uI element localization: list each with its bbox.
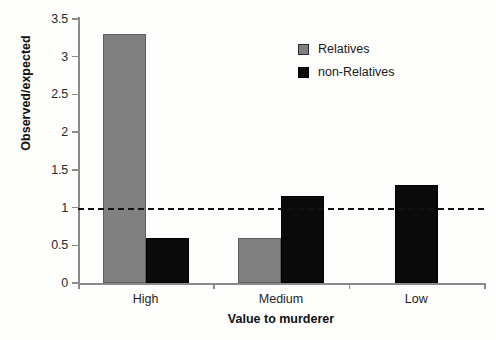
x-axis-tick xyxy=(78,283,80,289)
legend-label-relatives: Relatives xyxy=(318,42,369,56)
legend-swatch-relatives-icon xyxy=(298,44,309,55)
plot-area xyxy=(78,19,482,283)
x-axis-title: Value to murderer xyxy=(78,312,484,326)
bar-medium-relatives xyxy=(238,238,281,283)
bar-chart-figure: 00.511.522.533.5 HighMediumLow Observed/… xyxy=(0,0,496,340)
y-axis-tick-label: 2.5 xyxy=(51,87,68,101)
legend-swatch-non-relatives-icon xyxy=(298,67,309,78)
x-axis-group-label: Medium xyxy=(259,292,303,306)
y-axis-tick-label: 0 xyxy=(61,276,68,290)
y-axis-tick-label: 1.5 xyxy=(51,163,68,177)
chart-legend: Relatives non-Relatives xyxy=(298,42,394,88)
bar-high-relatives xyxy=(103,34,146,283)
x-axis-tick xyxy=(213,283,215,289)
y-axis-tick-label: 2 xyxy=(61,125,68,139)
bar-low-non-relatives xyxy=(395,185,438,283)
y-axis-tick-label: 1 xyxy=(61,200,68,214)
x-axis-tick xyxy=(349,283,351,289)
y-axis-tick-label: 3.5 xyxy=(51,12,68,26)
reference-line-at-one xyxy=(78,208,484,210)
bar-high-non-relatives xyxy=(146,238,189,283)
legend-entry-non-relatives: non-Relatives xyxy=(298,65,394,79)
y-axis-tick-label: 3 xyxy=(61,49,68,63)
legend-entry-relatives: Relatives xyxy=(298,42,394,56)
x-axis-group-label: Low xyxy=(405,292,428,306)
y-axis-tick-label: 0.5 xyxy=(51,238,68,252)
x-axis-tick xyxy=(484,283,486,289)
legend-label-non-relatives: non-Relatives xyxy=(318,65,394,79)
x-axis-group-label: High xyxy=(133,292,159,306)
x-axis-line xyxy=(78,283,484,285)
y-axis-title: Observed/expected xyxy=(19,3,33,183)
